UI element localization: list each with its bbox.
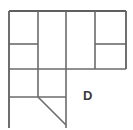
horizontal-lines-group — [9, 11, 126, 97]
diagram-svg — [0, 0, 133, 130]
segment-diagonal-dc — [38, 97, 66, 125]
diagonal-lines-group — [38, 97, 66, 125]
figure-canvas: D — [0, 0, 133, 130]
label-d: D — [83, 89, 92, 102]
